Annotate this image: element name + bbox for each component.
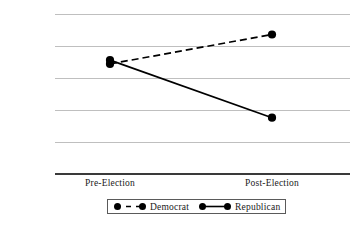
legend-label-democrat: Democrat xyxy=(150,202,189,212)
y-axis-title: % of Americans xyxy=(0,81,1,146)
x-tick-label-post-election: Post-Election xyxy=(245,178,299,188)
line-chart: % of Americans 35 30 25 20 15 10 xyxy=(0,0,355,226)
series-republican xyxy=(106,56,276,122)
series-plot xyxy=(55,14,350,174)
republican-line xyxy=(110,60,272,118)
legend-item-republican: Republican xyxy=(198,200,280,213)
legend-label-republican: Republican xyxy=(235,202,280,212)
republican-point-post-election xyxy=(268,114,276,122)
x-tick-label-pre-election: Pre-Election xyxy=(85,178,135,188)
legend-swatch-republican-icon xyxy=(198,201,232,212)
legend-item-democrat: Democrat xyxy=(113,200,189,213)
legend-swatch-democrat-icon xyxy=(113,201,147,212)
legend: Democrat Republican xyxy=(107,199,286,214)
republican-point-pre-election xyxy=(106,56,114,64)
series-democrat xyxy=(106,30,276,68)
plot-area xyxy=(55,14,350,174)
democrat-point-post-election xyxy=(268,30,276,38)
democrat-line xyxy=(110,34,272,63)
